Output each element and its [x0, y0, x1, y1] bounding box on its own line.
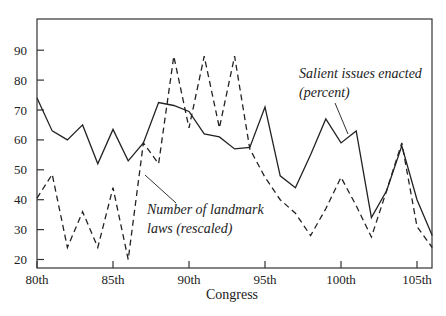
x-tick-label: 95th [253, 272, 277, 287]
landmark-laws-line [37, 56, 432, 259]
y-tick-label: 20 [14, 252, 27, 267]
x-tick-label: 100th [326, 272, 356, 287]
x-tick-label: 80th [25, 272, 49, 287]
annotations: Salient issues enacted(percent)Number of… [145, 66, 423, 237]
x-tick-label: 90th [177, 272, 201, 287]
y-tick-label: 70 [14, 103, 27, 118]
x-axis: 80th85th90th95th100th105th [25, 261, 432, 287]
x-tick-label: 85th [101, 272, 125, 287]
line-chart: 2030405060708090 80th85th90th95th100th10… [0, 0, 446, 316]
x-axis-title: Congress [206, 287, 258, 302]
y-tick-label: 50 [14, 162, 27, 177]
x-tick-label: 105th [402, 272, 432, 287]
series-label: Number of landmark [146, 202, 264, 217]
y-tick-label: 40 [14, 192, 27, 207]
series-label: Salient issues enacted [299, 66, 423, 81]
series-layer [37, 56, 432, 259]
y-tick-label: 60 [14, 132, 27, 147]
leader-line [335, 103, 348, 134]
series-label: laws (rescaled) [147, 221, 233, 237]
y-axis: 2030405060708090 [14, 43, 44, 267]
leader-line [145, 175, 176, 203]
y-tick-label: 90 [14, 43, 27, 58]
series-label: (percent) [299, 85, 350, 101]
y-tick-label: 30 [14, 222, 27, 237]
y-tick-label: 80 [14, 73, 27, 88]
